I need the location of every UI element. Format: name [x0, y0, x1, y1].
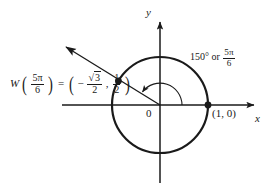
x-coordinate-denominator: 2 [87, 85, 102, 96]
left-paren-argument: ( [22, 78, 27, 91]
origin-label: 0 [146, 108, 152, 119]
y-coordinate-fraction: 1 2 [113, 73, 120, 95]
x-coordinate-sign: − [77, 77, 83, 89]
equation-argument: ( 5π 6 ) [22, 73, 53, 95]
argument-denominator: 6 [31, 85, 43, 96]
right-paren-coordinates: ) [125, 78, 130, 91]
equation-coordinate-pair: ( − √3 2 , 1 2 ) [69, 73, 130, 96]
y-axis-label: y [146, 7, 151, 18]
wrapping-function-equation: W ( 5π 6 ) = ( − √3 2 , 1 2 ) [10, 73, 130, 96]
argument-fraction: 5π 6 [31, 73, 43, 95]
radical-sign: √3 [88, 73, 101, 84]
left-paren-coordinates: ( [69, 78, 74, 91]
point-one-zero [205, 102, 212, 109]
angle-radians-denominator: 6 [223, 59, 234, 69]
function-name: W [10, 77, 19, 89]
coordinate-comma: , [106, 77, 109, 89]
angle-radians-fraction: 5π 6 [223, 48, 234, 68]
angle-degrees-text: 150° [190, 51, 209, 62]
angle-measure-label: 150° or 5π 6 [190, 48, 236, 68]
right-paren-argument: ) [48, 78, 53, 91]
radicand: 3 [94, 71, 101, 83]
point-one-zero-label: (1, 0) [212, 108, 236, 119]
angle-arc [143, 83, 183, 105]
x-axis-label: x [255, 113, 260, 124]
equals-sign: = [58, 77, 64, 89]
y-coordinate-denominator: 2 [113, 85, 120, 96]
x-coordinate-fraction: √3 2 [87, 73, 102, 96]
unit-circle-figure: y x 0 (1, 0) 150° or 5π 6 W ( 5π 6 ) = (… [0, 0, 276, 190]
angle-or-text: or [212, 51, 220, 62]
